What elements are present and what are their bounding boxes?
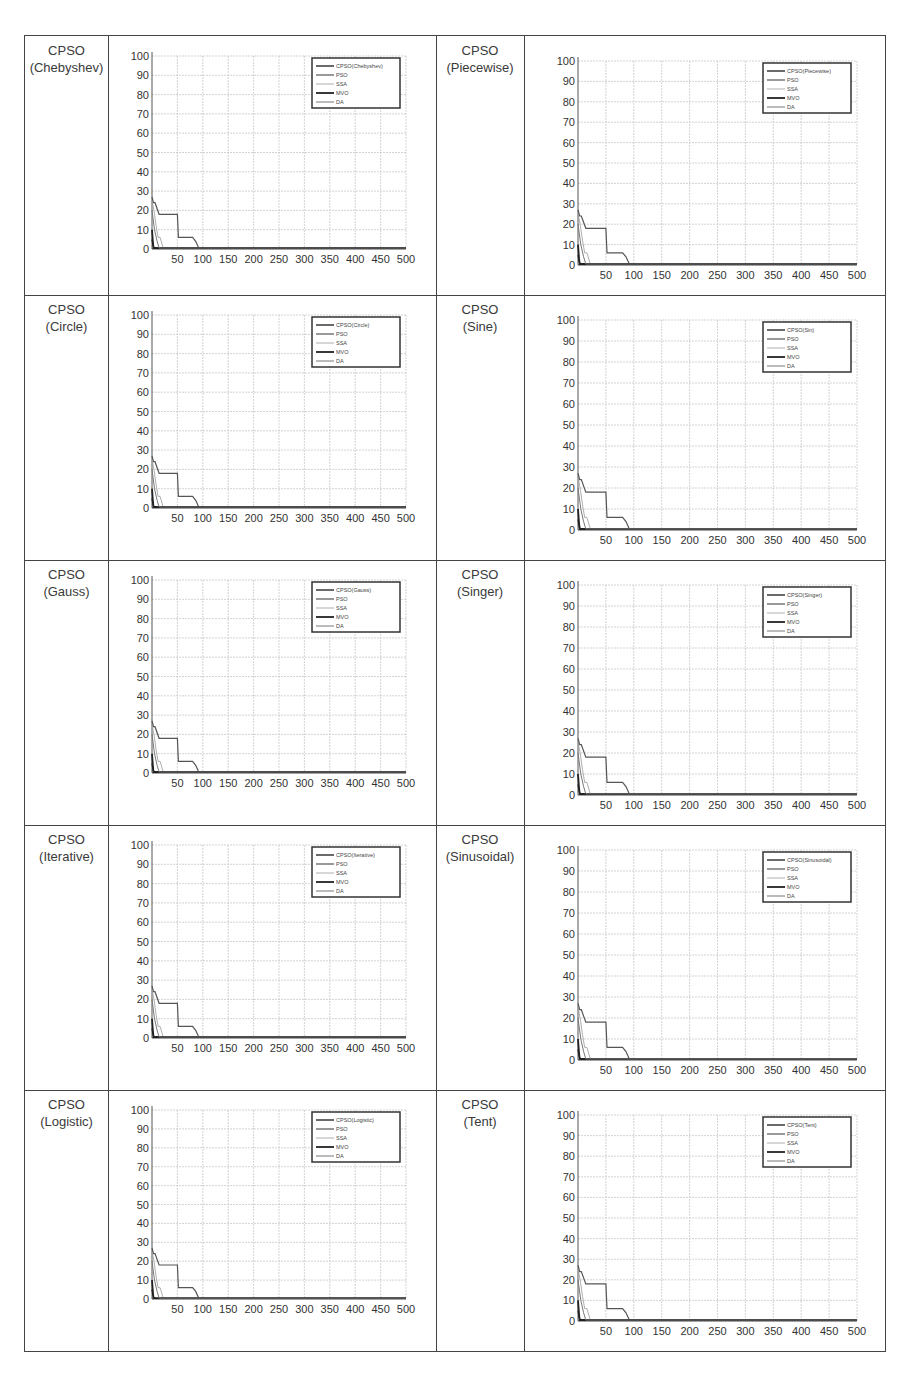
x-tick-label: 350: [321, 512, 339, 524]
x-tick-label: 300: [736, 799, 754, 811]
x-tick-label: 250: [270, 1303, 288, 1315]
legend-entry: CPSO(Singer): [787, 592, 822, 598]
convergence-chart: 0102030405060708090100501001502002503003…: [108, 825, 436, 1090]
x-tick-label: 300: [295, 512, 313, 524]
label-method: CPSO: [25, 566, 108, 583]
label-map: (Circle): [25, 318, 108, 335]
legend-entry: MVO: [336, 614, 349, 620]
x-tick-label: 450: [820, 269, 838, 281]
convergence-chart: 0102030405060708090100501001502002503003…: [524, 825, 885, 1090]
y-tick-label: 30: [137, 185, 149, 197]
x-tick-label: 500: [848, 1064, 866, 1076]
legend-entry: DA: [787, 1158, 795, 1164]
y-tick-label: 40: [137, 955, 149, 967]
label-method: CPSO: [25, 301, 108, 318]
y-tick-label: 20: [137, 993, 149, 1005]
label-method: CPSO: [436, 831, 524, 848]
x-tick-label: 500: [397, 1042, 415, 1054]
x-tick-label: 250: [270, 253, 288, 265]
x-tick-label: 500: [397, 1303, 415, 1315]
y-tick-label: 70: [137, 367, 149, 379]
y-tick-label: 90: [563, 600, 575, 612]
y-tick-label: 30: [137, 974, 149, 986]
x-tick-label: 450: [371, 777, 389, 789]
x-tick-label: 350: [764, 269, 782, 281]
y-tick-label: 0: [569, 1315, 575, 1327]
y-tick-label: 100: [557, 314, 575, 326]
y-tick-label: 80: [137, 613, 149, 625]
legend-entry: DA: [787, 628, 795, 634]
y-tick-label: 40: [563, 177, 575, 189]
y-tick-label: 40: [563, 1233, 575, 1245]
x-tick-label: 150: [653, 799, 671, 811]
x-tick-label: 100: [625, 799, 643, 811]
x-tick-label: 400: [792, 1325, 810, 1337]
x-tick-label: 250: [708, 799, 726, 811]
y-tick-label: 90: [563, 335, 575, 347]
y-tick-label: 50: [137, 936, 149, 948]
y-tick-label: 20: [137, 463, 149, 475]
legend-entry: PSO: [787, 77, 799, 83]
x-tick-label: 150: [219, 512, 237, 524]
legend-entry: PSO: [787, 1131, 799, 1137]
x-tick-label: 450: [820, 1064, 838, 1076]
y-tick-label: 20: [137, 204, 149, 216]
y-tick-label: 90: [137, 1123, 149, 1135]
y-tick-label: 0: [569, 789, 575, 801]
y-tick-label: 10: [137, 483, 149, 495]
legend: CPSO(Gauss)PSOSSAMVODA: [312, 582, 400, 632]
x-tick-label: 300: [736, 269, 754, 281]
y-tick-label: 90: [563, 75, 575, 87]
label-map: (Piecewise): [436, 59, 524, 76]
y-tick-label: 70: [137, 897, 149, 909]
legend-entry: SSA: [336, 1135, 347, 1141]
y-tick-label: 30: [137, 444, 149, 456]
y-tick-label: 90: [137, 593, 149, 605]
y-tick-label: 60: [563, 928, 575, 940]
row-label: CPSO(Sinusoidal): [436, 825, 524, 1090]
y-tick-label: 30: [563, 726, 575, 738]
y-tick-label: 60: [137, 386, 149, 398]
x-tick-label: 200: [680, 799, 698, 811]
y-tick-label: 20: [563, 1274, 575, 1286]
legend: CPSO(Singer)PSOSSAMVODA: [763, 587, 851, 637]
y-tick-label: 10: [137, 1013, 149, 1025]
x-tick-label: 50: [171, 777, 183, 789]
x-tick-label: 150: [219, 253, 237, 265]
x-tick-label: 500: [848, 799, 866, 811]
y-tick-label: 80: [137, 878, 149, 890]
row-label: CPSO(Piecewise): [436, 36, 524, 295]
figure-table: CPSO(Chebyshev)0102030405060708090100501…: [24, 35, 886, 1352]
y-tick-label: 20: [137, 1255, 149, 1267]
x-tick-label: 150: [653, 1064, 671, 1076]
x-tick-label: 350: [321, 777, 339, 789]
x-tick-label: 450: [371, 253, 389, 265]
x-tick-label: 250: [708, 1325, 726, 1337]
series-line-cpso: [578, 1311, 857, 1321]
y-tick-label: 30: [563, 991, 575, 1003]
label-map: (Logistic): [25, 1113, 108, 1130]
y-tick-label: 40: [137, 166, 149, 178]
legend-entry: SSA: [336, 81, 347, 87]
x-tick-label: 50: [171, 1303, 183, 1315]
legend-entry: SSA: [787, 1140, 798, 1146]
x-tick-label: 250: [270, 512, 288, 524]
y-tick-label: 10: [137, 1274, 149, 1286]
x-tick-label: 400: [346, 777, 364, 789]
legend-entry: DA: [336, 99, 344, 105]
legend-entry: DA: [336, 623, 344, 629]
y-tick-label: 70: [563, 642, 575, 654]
y-tick-label: 30: [563, 198, 575, 210]
convergence-chart: 0102030405060708090100501001502002503003…: [108, 1090, 436, 1351]
y-tick-label: 0: [143, 502, 149, 514]
x-tick-label: 150: [219, 1042, 237, 1054]
x-tick-label: 100: [625, 1325, 643, 1337]
y-tick-label: 10: [137, 224, 149, 236]
convergence-chart: 0102030405060708090100501001502002503003…: [108, 36, 436, 295]
x-tick-label: 500: [848, 269, 866, 281]
y-tick-label: 80: [563, 96, 575, 108]
y-tick-label: 0: [569, 259, 575, 271]
y-tick-label: 10: [137, 748, 149, 760]
legend-entry: SSA: [787, 86, 798, 92]
y-tick-label: 60: [563, 663, 575, 675]
